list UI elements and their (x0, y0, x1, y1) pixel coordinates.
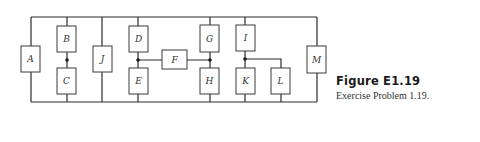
element-f-label: F (170, 55, 178, 65)
junction-ikl (243, 57, 247, 61)
figure-caption: Exercise Problem 1.19. (336, 90, 429, 101)
figure-title: Figure E1.19 (336, 74, 420, 88)
element-b-label: B (62, 34, 70, 44)
element-h: H (200, 68, 219, 94)
junction-fgh (208, 58, 212, 62)
element-a: A (21, 46, 40, 72)
element-m-label: M (311, 55, 322, 65)
element-k: K (236, 68, 255, 94)
element-d: D (129, 26, 148, 52)
element-m: M (307, 46, 326, 73)
element-g-label: G (206, 34, 213, 44)
element-e: E (129, 68, 148, 94)
circuit-diagram: A B C J D E F G H I K L (0, 0, 480, 142)
element-k-label: K (241, 76, 250, 86)
junction-def (136, 58, 140, 62)
element-b: B (57, 26, 76, 52)
element-h-label: H (205, 76, 214, 86)
junction-bc (65, 58, 69, 62)
element-e-label: E (134, 76, 142, 86)
element-d-label: D (134, 34, 142, 44)
element-f: F (162, 50, 187, 69)
element-c: C (57, 68, 76, 94)
element-c-label: C (63, 76, 70, 86)
element-g: G (200, 25, 219, 52)
element-l: L (271, 68, 290, 94)
element-l-label: L (277, 76, 284, 86)
element-j: J (93, 46, 112, 72)
element-i: I (236, 25, 255, 51)
element-i-label: I (243, 33, 248, 43)
element-a-label: A (26, 54, 34, 64)
